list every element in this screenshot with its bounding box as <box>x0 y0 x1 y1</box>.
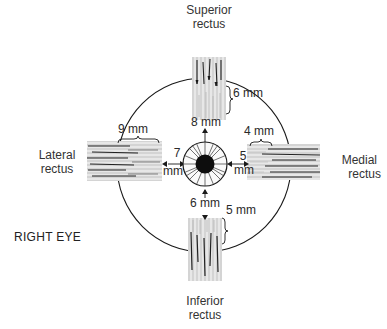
medial-distance-value: 5 <box>228 150 248 163</box>
lateral-rectus-label-line1: Lateral <box>32 148 82 162</box>
medial-distance-unit: mm <box>228 164 248 177</box>
superior-rectus-muscle <box>192 57 226 120</box>
lateral-distance-value: 7 <box>163 147 183 160</box>
superior-distance-label: 8 mm <box>191 116 221 129</box>
inferior-distance-label: 6 mm <box>190 197 220 210</box>
lateral-rectus-label-line2: rectus <box>32 162 82 176</box>
inferior-distance-unit: mm <box>200 196 220 210</box>
cornea-iris <box>183 142 227 186</box>
lateral-distance-label: 7 mm <box>163 147 183 178</box>
inferior-insertion-width: 5 mm <box>226 204 256 217</box>
lateral-insertion-width: 9 mm <box>118 123 148 136</box>
inferior-rectus-label-line1: Inferior <box>170 294 240 308</box>
medial-rectus-label: Medial rectus <box>325 153 381 181</box>
lateral-rectus-muscle <box>87 141 162 181</box>
superior-distance-value: 8 <box>191 115 198 129</box>
superior-insertion-width: 6 mm <box>233 87 263 100</box>
medial-distance-label: 5 mm <box>228 150 248 177</box>
inferior-rectus-muscle <box>188 218 222 281</box>
inferior-rectus-label: Inferior rectus <box>170 294 240 322</box>
superior-rectus-label-line1: Superior <box>179 3 239 17</box>
medial-rectus-muscle <box>247 144 320 180</box>
eye-side-label: RIGHT EYE <box>14 230 81 244</box>
inferior-insertion-bracket <box>222 218 228 244</box>
inferior-distance-value: 6 <box>190 196 197 210</box>
superior-rectus-label-line2: rectus <box>179 17 239 31</box>
lateral-distance-unit: mm <box>163 165 183 178</box>
inferior-rectus-label-line2: rectus <box>170 308 240 322</box>
medial-rectus-label-line1: Medial <box>325 153 381 167</box>
superior-insertion-bracket <box>226 86 233 114</box>
lateral-rectus-label: Lateral rectus <box>32 148 82 176</box>
superior-distance-unit: mm <box>201 115 221 129</box>
pupil <box>196 155 215 174</box>
medial-rectus-label-line2: rectus <box>325 167 381 181</box>
medial-insertion-width: 4 mm <box>244 125 274 138</box>
superior-rectus-label: Superior rectus <box>179 3 239 31</box>
